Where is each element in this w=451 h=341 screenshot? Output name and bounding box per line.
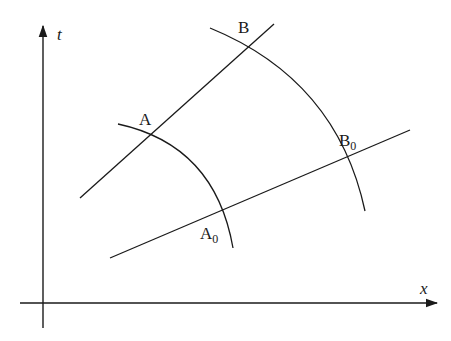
point-B0-label: B0 [339,131,356,153]
point-A0-label: A0 [200,224,218,246]
point-B-label: B [238,18,249,37]
t-axis: t [43,25,63,328]
worldline-A0B0 [110,130,410,258]
worldline-AB [80,24,274,198]
arc-B-B0 [210,28,365,211]
x-axis: x [20,279,437,303]
x-axis-label: x [419,279,428,298]
point-A-label: A [139,110,152,129]
spacetime-diagram: t x A B A0 B0 [0,0,451,341]
t-axis-label: t [57,25,63,44]
